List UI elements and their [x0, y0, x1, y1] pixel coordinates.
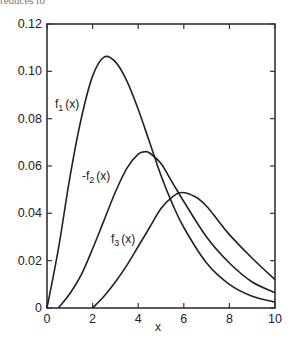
- y-tick-label: 0.06: [18, 159, 42, 173]
- x-tick-label: 0: [44, 312, 51, 326]
- y-tick-label: 0.08: [18, 112, 42, 126]
- y-tick-label: 0: [35, 301, 42, 315]
- x-tick-label: 6: [180, 312, 187, 326]
- y-tick-label: 0.04: [18, 206, 42, 220]
- line-chart: 024681000.020.040.060.080.100.12 f1(x)-f…: [0, 0, 294, 349]
- y-tick-label: 0.12: [18, 17, 42, 31]
- curve-labels: f1(x)-f2(x)f3(x): [55, 97, 135, 248]
- plot-border: [47, 24, 275, 308]
- x-tick-label: 4: [135, 312, 142, 326]
- x-tick-label: 8: [226, 312, 233, 326]
- curve-label-f2: -f2(x): [82, 169, 110, 185]
- axis-ticks: 024681000.020.040.060.080.100.12: [18, 17, 282, 326]
- x-axis-label: x: [155, 320, 161, 334]
- curve-f3: [93, 193, 275, 309]
- y-tick-label: 0.02: [18, 254, 42, 268]
- plot-frame: [47, 24, 275, 308]
- y-tick-label: 0.10: [18, 64, 42, 78]
- x-tick-label: 10: [268, 312, 282, 326]
- curve-label-f1: f1(x): [55, 97, 79, 113]
- x-tick-label: 2: [89, 312, 96, 326]
- curve-label-f3: f3(x): [111, 232, 135, 248]
